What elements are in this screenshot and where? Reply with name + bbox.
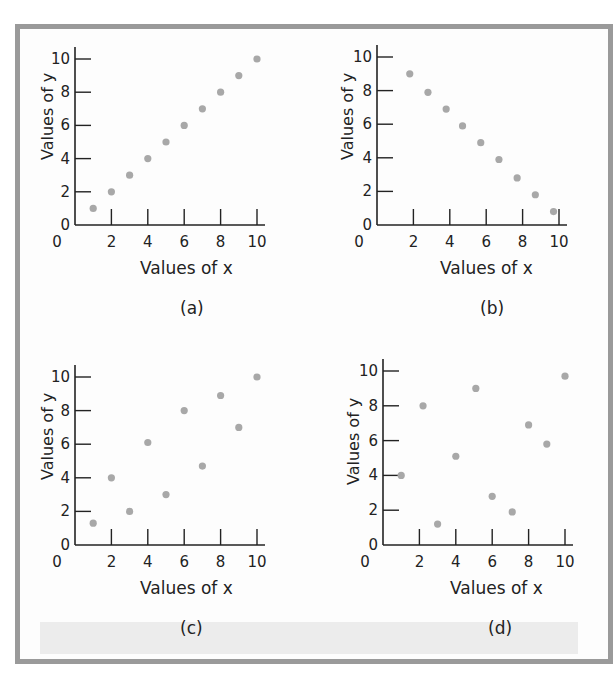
data-point	[162, 491, 169, 498]
data-point	[550, 208, 557, 215]
x-axis-label-b: Values of x	[440, 258, 533, 278]
x-tick-label: 10	[247, 233, 266, 251]
x-tick-label: 10	[247, 553, 266, 571]
data-point	[181, 407, 188, 414]
data-point	[489, 493, 496, 500]
y-tick-label: 10	[353, 48, 372, 66]
y-tick-label: 2	[362, 182, 372, 200]
x-tick-label: 6	[481, 233, 491, 251]
data-point	[514, 174, 521, 181]
plot-c: 02468100246810	[20, 360, 310, 560]
x-tick-label: 4	[143, 553, 153, 571]
x-tick-label: 10	[555, 553, 574, 571]
x-tick-label: 8	[216, 233, 226, 251]
y-axis-label-b: Values of y	[338, 73, 357, 160]
y-tick-label: 0	[362, 216, 372, 234]
y-tick-label: 4	[368, 466, 378, 484]
data-point	[419, 402, 426, 409]
x-axis-label-d: Values of x	[450, 578, 543, 598]
x-tick-label: 4	[143, 233, 153, 251]
data-point	[217, 89, 224, 96]
y-tick-label: 10	[51, 368, 70, 386]
data-point	[398, 472, 405, 479]
data-point	[561, 373, 568, 380]
y-tick-label: 6	[368, 432, 378, 450]
y-tick-label: 8	[60, 402, 70, 420]
x-tick-label: 10	[549, 233, 568, 251]
y-tick-label: 0	[60, 536, 70, 554]
x-tick-label: 2	[409, 233, 419, 251]
panel-label-a: (a)	[180, 298, 204, 318]
data-point	[108, 474, 115, 481]
y-tick-label: 8	[60, 83, 70, 101]
data-point	[434, 521, 441, 528]
data-point	[108, 188, 115, 195]
y-tick-label: 2	[60, 183, 70, 201]
y-tick-label: 4	[60, 150, 70, 168]
y-tick-label: 2	[60, 502, 70, 520]
data-point	[199, 462, 206, 469]
x-tick-label: 4	[445, 233, 455, 251]
x-tick-label: 8	[216, 553, 226, 571]
y-tick-label: 8	[362, 82, 372, 100]
y-axis-label-c: Values of y	[38, 393, 57, 480]
data-point	[144, 439, 151, 446]
data-point	[217, 392, 224, 399]
data-point	[472, 385, 479, 392]
y-tick-label: 6	[60, 116, 70, 134]
x-tick-label: 0	[52, 233, 62, 251]
data-point	[532, 191, 539, 198]
data-point	[509, 508, 516, 515]
data-point	[126, 508, 133, 515]
y-tick-label: 4	[60, 469, 70, 487]
data-point	[126, 172, 133, 179]
panel-label-c: (c)	[180, 618, 203, 638]
x-axis-label-c: Values of x	[140, 578, 233, 598]
y-tick-label: 10	[359, 362, 378, 380]
data-point	[543, 440, 550, 447]
data-point	[235, 72, 242, 79]
data-point	[459, 122, 466, 129]
data-point	[199, 105, 206, 112]
data-point	[253, 55, 260, 62]
data-point	[424, 89, 431, 96]
panel-c: 02468100246810 Values of y Values of x (…	[20, 360, 310, 660]
data-point	[253, 373, 260, 380]
plot-d: 02468100246810	[320, 360, 610, 560]
x-tick-label: 0	[360, 553, 370, 571]
y-tick-label: 10	[51, 50, 70, 68]
data-point	[90, 205, 97, 212]
y-tick-label: 6	[60, 435, 70, 453]
data-point	[235, 424, 242, 431]
x-tick-label: 6	[487, 553, 497, 571]
y-tick-label: 6	[362, 115, 372, 133]
panel-label-d: (d)	[488, 618, 512, 638]
data-point	[525, 421, 532, 428]
x-tick-label: 6	[179, 553, 189, 571]
y-tick-label: 8	[368, 397, 378, 415]
x-tick-label: 8	[518, 233, 528, 251]
y-axis-label-d: Values of y	[344, 398, 363, 485]
x-tick-label: 2	[107, 233, 117, 251]
x-axis-label-a: Values of x	[140, 258, 233, 278]
data-point	[477, 139, 484, 146]
data-point	[443, 105, 450, 112]
x-tick-label: 2	[107, 553, 117, 571]
y-tick-label: 2	[368, 501, 378, 519]
panel-d: 02468100246810 Values of y Values of x (…	[320, 360, 610, 660]
data-point	[495, 156, 502, 163]
panel-label-b: (b)	[480, 298, 504, 318]
x-tick-label: 2	[415, 553, 425, 571]
x-tick-label: 0	[52, 553, 62, 571]
data-point	[181, 122, 188, 129]
panel-b: 02468100246810 Values of y Values of x (…	[320, 40, 610, 340]
data-point	[90, 520, 97, 527]
x-tick-label: 8	[524, 553, 534, 571]
x-tick-label: 0	[354, 233, 364, 251]
data-point	[144, 155, 151, 162]
y-tick-label: 4	[362, 149, 372, 167]
data-point	[452, 453, 459, 460]
x-tick-label: 4	[451, 553, 461, 571]
y-tick-label: 0	[368, 536, 378, 554]
y-tick-label: 0	[60, 216, 70, 234]
